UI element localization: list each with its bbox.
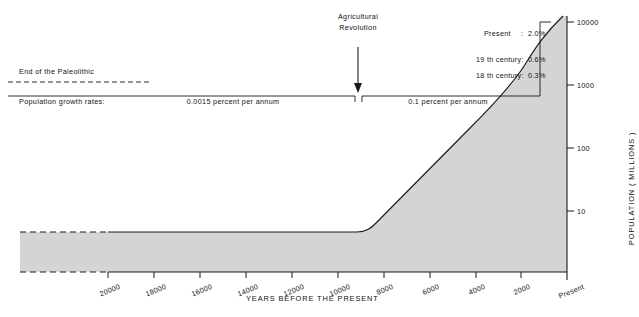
rates-row-period-0: Present [484,29,511,38]
agricultural-revolution-label-line2: Revolution [339,24,376,32]
y-tick-label-1000: 1000 [577,81,594,90]
population-growth-rates-label: Population growth rates: [19,98,105,106]
y-tick-label-100: 100 [577,144,590,153]
rates-row-period-1: 19 th century: [476,55,524,64]
y-axis-title: POPULATION ( MILLIONS ) [627,132,636,245]
x-tick-marks [108,272,567,280]
rates-row-value-0: 2.0% [528,29,546,38]
agricultural-revolution-label-line1: Agricultural [338,13,378,21]
rate-pre-agricultural-label: 0.0015 percent per annum [187,98,280,106]
rates-row-value-1: 0.6% [528,55,546,64]
chart-canvas [0,0,639,317]
agricultural-revolution-arrow-icon [354,47,362,93]
rate-post-agricultural-label: 0.1 percent per annum [408,98,488,106]
rates-row-value-2: 0.3% [528,71,546,80]
rates-row-period-2: 18 th century: [476,71,524,80]
y-tick-label-10: 10 [577,207,586,216]
population-growth-chart: End of the Paleolithic Population growth… [0,0,639,317]
y-tick-label-10000: 10000 [577,18,599,27]
end-of-paleolithic-label: End of the Paleolithic [19,68,94,76]
x-axis-title: YEARS BEFORE THE PRESENT [246,294,379,303]
y-tick-marks [567,22,574,211]
rates-row-colon-0: : [521,29,523,38]
